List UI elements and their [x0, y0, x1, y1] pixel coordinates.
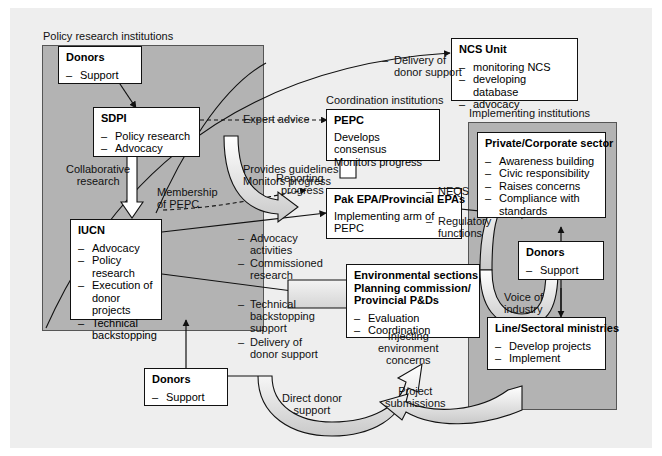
list-item: –Develop projects: [495, 340, 599, 353]
box-ncs-unit[interactable]: NCS Unit –monitoring NCS –developing dat…: [451, 38, 578, 101]
box-items: –Policy research –Advocacy: [101, 130, 193, 155]
box-donors-top-left[interactable]: Donors –Support: [58, 46, 142, 84]
box-items: –Advocacy –Policy research –Execution of…: [78, 242, 155, 342]
item-text: Implement: [509, 352, 560, 364]
box-donors-bottom-left[interactable]: Donors –Support: [144, 368, 228, 406]
item-text: Advocacy: [115, 142, 163, 154]
label-line: Delivery of: [394, 54, 446, 66]
dash-bullet: –: [495, 340, 501, 353]
box-items: –Develop projects –Implement: [495, 340, 599, 365]
dash-bullet: –: [78, 242, 84, 255]
diagram-canvas: Policy research institutions Implementin…: [10, 8, 652, 448]
label-line: Injecting: [388, 330, 429, 342]
list-item: –advocacy: [459, 98, 571, 111]
box-pepc[interactable]: PEPC Develops consensus Monitors progres…: [326, 109, 440, 161]
label-line: Membership: [157, 186, 218, 198]
dash-bullet: –: [382, 54, 388, 66]
dash-bullet: –: [485, 180, 491, 193]
edge-label-reporting-progress: Reporting progress: [276, 172, 324, 196]
item-text: Execution of donor projects: [92, 279, 153, 316]
dash-bullet: –: [426, 215, 432, 227]
dash-bullet: –: [66, 69, 72, 82]
label-line: industry: [504, 303, 543, 315]
item-text: Policy research: [115, 130, 190, 142]
edge-label-membership-of-pepc: Membership of PEPC: [157, 186, 218, 210]
item-text: advocacy: [473, 98, 519, 110]
list-item: –Support: [66, 69, 135, 82]
box-title: Donors: [152, 373, 221, 386]
dash-bullet: –: [426, 185, 432, 197]
dash-bullet: –: [152, 391, 158, 404]
item-text: developing database: [473, 73, 526, 98]
box-title: PEPC: [334, 114, 433, 127]
box-title: IUCN: [78, 224, 155, 237]
label-line: Reporting: [276, 172, 324, 184]
item-text: Technical backstopping: [92, 317, 157, 342]
group-label-coordination: Coordination institutions: [326, 94, 443, 106]
label-line: environment: [378, 342, 439, 354]
label-line: Expert advice: [243, 113, 310, 125]
edge-label-regulatory-functions: – Regulatory functions: [426, 215, 491, 239]
box-private-corporate-sector[interactable]: Private/Corporate sector –Awareness buil…: [477, 132, 606, 218]
box-line: Develops consensus: [334, 131, 433, 156]
list-item: –developing database: [459, 73, 571, 98]
list-item: –Evaluation: [354, 312, 473, 325]
box-line: Monitors progress: [334, 156, 433, 169]
label-line: Voice of: [504, 291, 543, 303]
box-iucn[interactable]: IUCN –Advocacy –Policy research –Executi…: [70, 219, 162, 320]
dash-bullet: –: [78, 254, 84, 267]
box-environmental-sections[interactable]: Environmental sections Planning commissi…: [346, 264, 480, 338]
list-item: –Awareness building: [485, 155, 599, 168]
box-title-line: Planning commission/: [354, 282, 473, 295]
dash-bullet: –: [485, 192, 491, 205]
item-text: Support: [166, 391, 205, 403]
box-items: –Support: [66, 69, 135, 82]
list-item: –Raises concerns: [485, 180, 599, 193]
item-text: monitoring NCS: [473, 61, 551, 73]
box-donors-right[interactable]: Donors –Support: [518, 241, 604, 280]
box-items: –Awareness building –Civic responsibilit…: [485, 155, 599, 218]
item-text: Support: [540, 264, 579, 276]
dash-bullet: –: [238, 336, 244, 348]
item-text: Advocacy: [92, 242, 140, 254]
label-line: Direct donor: [282, 392, 342, 404]
label-line: Technical backstopping support: [250, 298, 332, 334]
edge-label-delivery-of-donor-support: – Delivery of donor support: [382, 54, 462, 78]
dash-bullet: –: [354, 312, 360, 325]
box-title: Line/Sectoral ministries: [495, 322, 599, 335]
list-item: –monitoring NCS: [459, 61, 571, 74]
item-text: Develop projects: [509, 340, 591, 352]
edge-label-injecting-environment-concerns: Injecting environment concerns: [378, 330, 439, 366]
panel-label-policy-research: Policy research institutions: [43, 30, 173, 42]
box-title: NCS Unit: [459, 43, 571, 56]
item-text: Support: [80, 69, 119, 81]
dash-bullet: –: [485, 155, 491, 168]
box-sdpi[interactable]: SDPI –Policy research –Advocacy: [93, 107, 200, 157]
label-line: donor support: [394, 66, 462, 78]
list-item: –Civic responsibility: [485, 167, 599, 180]
label-line: functions: [438, 227, 482, 239]
list-item: –Policy research: [101, 130, 193, 143]
edge-label-project-submissions: Project submissions: [385, 385, 446, 409]
label-line: support: [294, 404, 331, 416]
label-line: of PEPC: [157, 198, 199, 210]
box-items: –Support: [152, 391, 221, 404]
dash-bullet: –: [238, 232, 244, 244]
item-text: Civic responsibility: [499, 167, 589, 179]
dash-bullet: –: [495, 352, 501, 365]
list-item: –Support: [152, 391, 221, 404]
label-line: progress: [281, 184, 324, 196]
box-line-sectoral-ministries[interactable]: Line/Sectoral ministries –Develop projec…: [487, 317, 606, 370]
label-line: research: [77, 175, 120, 187]
list-item: –Execution of donor projects: [78, 279, 155, 317]
edge-label-technical-backstopping-support: – Technical backstopping support: [238, 298, 332, 334]
label-line: NEQS: [438, 185, 469, 197]
label-line: Delivery of donor support: [250, 336, 330, 360]
box-title-line: Provincial P&Ds: [354, 294, 473, 307]
box-items: –monitoring NCS –developing database –ad…: [459, 61, 571, 111]
label-line: Advocacy activities: [250, 232, 326, 256]
list-item: –Compliance with standards: [485, 192, 599, 217]
dash-bullet: –: [78, 317, 84, 330]
box-title: SDPI: [101, 112, 193, 125]
label-line: concerns: [386, 354, 431, 366]
